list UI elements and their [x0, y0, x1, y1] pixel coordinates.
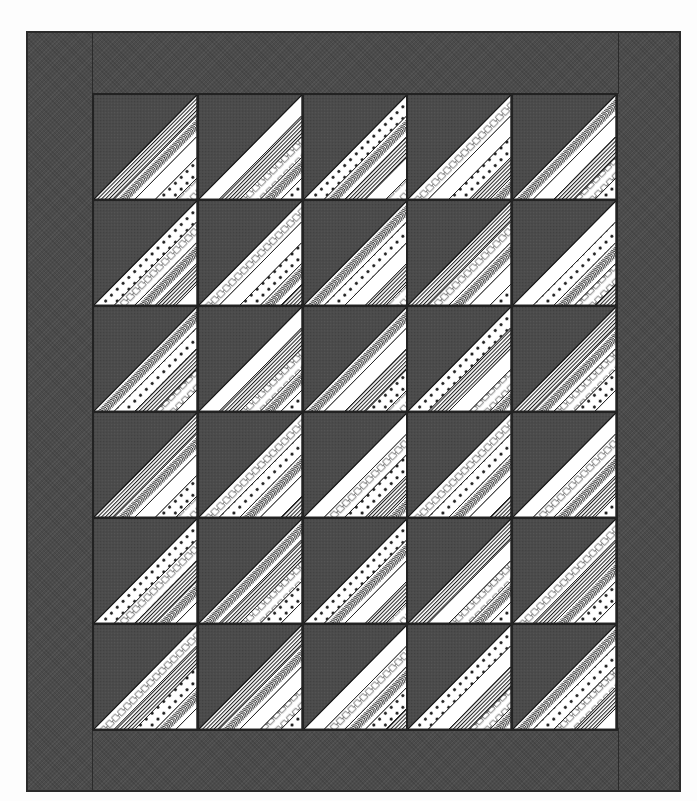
quilt-block	[199, 625, 302, 729]
quilt-block	[513, 625, 616, 729]
quilt-block	[304, 201, 407, 305]
quilt-block	[94, 519, 197, 623]
quilt-block	[513, 519, 616, 623]
border-bottom	[92, 728, 619, 791]
quilt-block	[304, 519, 407, 623]
border-right	[616, 32, 680, 791]
quilt-block	[94, 201, 197, 305]
quilt-block	[304, 95, 407, 199]
quilt-block	[94, 413, 197, 517]
quilt-block	[513, 95, 616, 199]
quilt-block	[199, 307, 302, 411]
quilt-block	[94, 307, 197, 411]
quilt-block	[304, 413, 407, 517]
quilt-block	[94, 625, 197, 729]
quilt	[26, 31, 681, 792]
quilt-block	[94, 95, 197, 199]
quilt-block	[408, 307, 511, 411]
quilt-block	[513, 201, 616, 305]
quilt-block	[408, 413, 511, 517]
quilt-block	[304, 307, 407, 411]
border-top	[92, 32, 619, 94]
quilt-block	[513, 307, 616, 411]
quilt-block	[199, 413, 302, 517]
quilt-block	[199, 201, 302, 305]
block-grid	[92, 93, 618, 731]
quilt-block	[408, 519, 511, 623]
border-left	[27, 32, 93, 791]
quilt-block	[199, 95, 302, 199]
quilt-block	[304, 625, 407, 729]
quilt-block	[513, 413, 616, 517]
quilt-block	[408, 95, 511, 199]
quilt-block	[408, 625, 511, 729]
quilt-block	[408, 201, 511, 305]
quilt-block	[199, 519, 302, 623]
